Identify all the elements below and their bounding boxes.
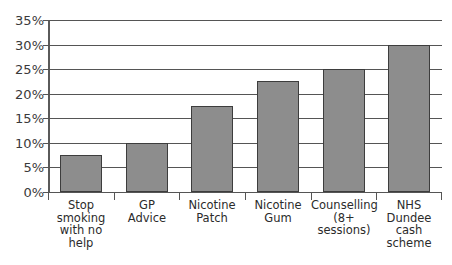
bar bbox=[388, 45, 430, 192]
y-axis-tick-mark bbox=[43, 118, 50, 119]
cut-off-title: · · · · · · bbox=[0, 0, 452, 7]
gridline bbox=[48, 118, 442, 119]
x-axis-category-label-line: Counselling bbox=[311, 199, 377, 212]
bar bbox=[126, 143, 168, 192]
gridline bbox=[48, 45, 442, 46]
x-axis-category-label: NHSDundeecashscheme bbox=[376, 199, 442, 249]
x-axis-category-label-line: Stop bbox=[48, 199, 114, 212]
y-axis-tick-label: 20% bbox=[4, 88, 44, 101]
x-axis-category-label: NicotineGum bbox=[245, 199, 311, 224]
x-axis-category-label-line: GP bbox=[114, 199, 180, 212]
bar bbox=[257, 81, 299, 192]
bar-chart: · · · · · · 35%30%25%20%15%10%5%0% Stops… bbox=[0, 0, 452, 265]
y-axis-tick-label: 35% bbox=[4, 14, 44, 27]
gridline bbox=[48, 94, 442, 95]
y-axis-tick-mark bbox=[43, 143, 50, 144]
y-axis-labels: 35%30%25%20%15%10%5%0% bbox=[0, 20, 44, 193]
x-axis-category-label-line: cash bbox=[376, 224, 442, 237]
x-axis-category-label-line: with no bbox=[48, 224, 114, 237]
y-axis-tick-mark bbox=[43, 192, 50, 193]
x-axis-category-label: Stopsmokingwith nohelp bbox=[48, 199, 114, 249]
y-axis-tick-label: 25% bbox=[4, 63, 44, 76]
x-axis-category-label-line: Nicotine bbox=[179, 199, 245, 212]
bar bbox=[60, 155, 102, 192]
x-axis-category-label: GPAdvice bbox=[114, 199, 180, 224]
bar bbox=[323, 69, 365, 192]
x-axis-labels: Stopsmokingwith nohelpGPAdviceNicotinePa… bbox=[48, 199, 442, 263]
x-axis-category-label: Counselling(8+sessions) bbox=[311, 199, 377, 237]
y-axis-tick-mark bbox=[43, 20, 50, 21]
gridline bbox=[48, 143, 442, 144]
y-axis-tick-mark bbox=[43, 69, 50, 70]
y-axis-tick-label: 15% bbox=[4, 112, 44, 125]
gridline bbox=[48, 167, 442, 168]
y-axis-tick-label: 5% bbox=[4, 161, 44, 174]
x-axis-category-label: NicotinePatch bbox=[179, 199, 245, 224]
plot-area bbox=[48, 20, 442, 192]
gridline bbox=[48, 20, 442, 21]
y-axis-tick-mark bbox=[43, 94, 50, 95]
y-axis-tick-mark bbox=[43, 167, 50, 168]
x-axis-category-label-line: Nicotine bbox=[245, 199, 311, 212]
y-axis-tick-mark bbox=[43, 45, 50, 46]
x-axis-category-label-line: Patch bbox=[179, 212, 245, 225]
bar bbox=[191, 106, 233, 192]
x-axis-category-label-line: Gum bbox=[245, 212, 311, 225]
x-axis-category-label-line: scheme bbox=[376, 237, 442, 250]
y-axis-tick-label: 0% bbox=[4, 186, 44, 199]
x-axis-category-label-line: NHS bbox=[376, 199, 442, 212]
title-text: · · · · · · bbox=[205, 0, 242, 2]
y-axis-tick-label: 10% bbox=[4, 137, 44, 150]
x-axis-category-label-line: sessions) bbox=[311, 224, 377, 237]
x-axis-category-label-line: Advice bbox=[114, 212, 180, 225]
x-axis-category-label-line: help bbox=[48, 237, 114, 250]
y-axis-tick-label: 30% bbox=[4, 39, 44, 52]
gridline bbox=[48, 69, 442, 70]
